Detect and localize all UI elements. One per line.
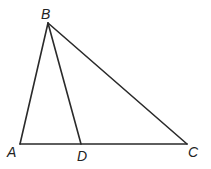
segment-bc — [48, 23, 187, 144]
label-c: C — [188, 144, 199, 160]
label-a: A — [6, 144, 16, 160]
segment-bd — [48, 23, 81, 144]
diagram-canvas: B A D C — [0, 0, 211, 169]
triangle-diagram: B A D C — [0, 0, 211, 169]
label-b: B — [41, 6, 50, 22]
segment-ab — [20, 23, 48, 144]
label-d: D — [77, 148, 87, 164]
